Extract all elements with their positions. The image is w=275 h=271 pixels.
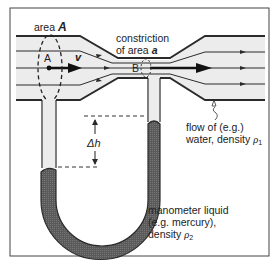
- venturi-diagram: area A A v B constriction of area a Δh f…: [0, 0, 275, 271]
- manometer-label-2: (e.g. mercury),: [148, 216, 216, 228]
- area-a-label: area A: [34, 20, 67, 34]
- point-a-label: A: [44, 52, 51, 64]
- flow-label-2: water, density ρ1: [185, 133, 262, 146]
- velocity-label: v: [75, 51, 82, 63]
- manometer-label-1: manometer liquid: [148, 204, 229, 216]
- delta-h-label: Δh: [86, 137, 101, 149]
- point-a-dot: [47, 66, 52, 71]
- constriction-label-2: of area a: [116, 44, 158, 56]
- constriction-label-1: constriction: [116, 32, 169, 44]
- manometer-label-3: density ρ2: [148, 228, 193, 241]
- point-b-label: B: [132, 62, 139, 74]
- flow-label-1: flow of (e.g.): [186, 121, 244, 133]
